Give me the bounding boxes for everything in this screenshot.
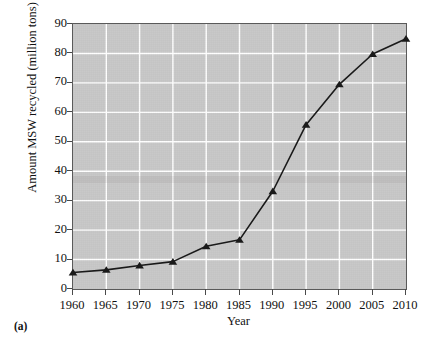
y-axis-tick-mark [67, 23, 72, 24]
x-axis-title: Year [72, 314, 405, 329]
y-axis-tick-label: 80 [55, 46, 68, 59]
data-point-marker [269, 188, 278, 195]
panel-label: (a) [14, 320, 27, 332]
y-axis-tick-mark [67, 259, 72, 260]
y-axis-tick-label: 70 [55, 75, 68, 88]
x-axis-tick-mark [105, 289, 106, 295]
y-axis-tick-mark [67, 111, 72, 112]
plot-area [72, 23, 407, 290]
y-axis-tick-label: 20 [55, 223, 68, 236]
y-axis-tick-label: 50 [55, 134, 68, 147]
x-axis-tick-mark [139, 289, 140, 295]
data-point-marker [402, 35, 411, 42]
x-axis-tick-mark [405, 289, 406, 295]
x-axis-tick-mark [272, 289, 273, 295]
y-axis-tick-mark [67, 200, 72, 201]
data-point-marker [235, 236, 244, 243]
y-axis-tick-label: 90 [55, 17, 68, 30]
y-axis-title: Amount MSW recycled (million tons) [25, 0, 40, 223]
figure-panel: 0102030405060708090 Amount MSW recycled … [0, 0, 435, 338]
y-axis-tick-label: 60 [55, 105, 68, 118]
y-axis-tick-mark [67, 170, 72, 171]
data-point-marker [368, 50, 377, 57]
data-series-msw-recycled [73, 24, 406, 289]
y-axis-tick-label: 30 [55, 193, 68, 206]
y-axis-tick-mark [67, 141, 72, 142]
x-axis-tick-mark [205, 289, 206, 295]
x-axis-tick-mark [172, 289, 173, 295]
x-axis-tick-mark [372, 289, 373, 295]
y-axis-tick-label: 40 [55, 164, 68, 177]
y-axis-tick-labels: 0102030405060708090 [36, 23, 67, 288]
x-axis-tick-mark [305, 289, 306, 295]
x-axis-tick-mark [338, 289, 339, 295]
x-axis-tick-label: 2010 [385, 298, 425, 313]
y-axis-tick-label: 10 [55, 252, 68, 265]
y-axis-tick-mark [67, 82, 72, 83]
x-axis-tick-mark [72, 289, 73, 295]
y-axis-tick-mark [67, 229, 72, 230]
x-axis-tick-mark [239, 289, 240, 295]
y-axis-tick-mark [67, 52, 72, 53]
